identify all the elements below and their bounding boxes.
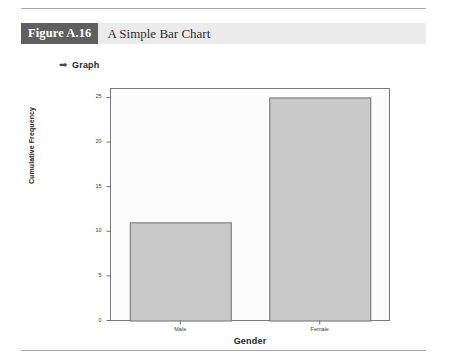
- y-tick-label: 20: [82, 139, 102, 145]
- bar: [130, 223, 231, 321]
- x-axis-title: Gender: [110, 336, 390, 346]
- x-tick-label: Male: [145, 327, 215, 333]
- x-tick-label: Female: [285, 327, 355, 333]
- y-tick-label: 10: [82, 228, 102, 234]
- bar-chart-svg: [0, 0, 449, 358]
- y-axis-title: Cumulative Frequency: [28, 86, 35, 206]
- y-tick-label: 25: [82, 94, 102, 100]
- y-tick-label: 15: [82, 184, 102, 190]
- bar: [270, 98, 371, 321]
- y-tick-label: 5: [82, 273, 102, 279]
- y-tick-label: 0: [82, 318, 102, 324]
- bar-chart: Cumulative Frequency Gender 0510152025 M…: [0, 0, 449, 358]
